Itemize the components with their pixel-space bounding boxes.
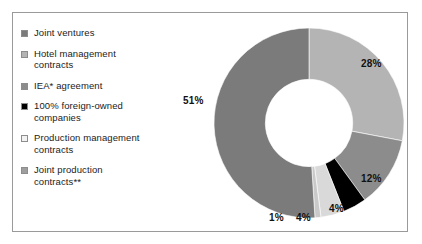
donut-chart-svg — [211, 25, 407, 221]
donut-slices — [214, 28, 404, 218]
legend-swatch-hotel-management-contracts — [21, 51, 28, 58]
legend-item-foreign-owned-companies: 100% foreign-owned companies — [21, 100, 189, 123]
legend-item-joint-production-contracts: Joint production contracts** — [21, 164, 189, 187]
legend-item-iea-agreement: IEA* agreement — [21, 80, 189, 92]
legend-swatch-joint-production-contracts — [21, 167, 28, 174]
chart-legend: Joint ventures Hotel management contract… — [21, 27, 189, 196]
legend-swatch-foreign-owned-companies — [21, 103, 28, 110]
legend-label-foreign-owned-companies: 100% foreign-owned companies — [34, 100, 123, 123]
legend-label-hotel-management-contracts: Hotel management contracts — [34, 48, 116, 71]
slice-value-label-4-black: 4% — [329, 203, 344, 214]
slice-value-label-12: 12% — [361, 173, 382, 184]
donut-slice-28pct-0 — [309, 28, 404, 141]
legend-swatch-iea-agreement — [21, 83, 28, 90]
slice-value-label-4-light: 4% — [296, 212, 311, 223]
slice-value-label-28: 28% — [361, 58, 382, 69]
legend-item-hotel-management-contracts: Hotel management contracts — [21, 48, 189, 71]
donut-chart: 28% 12% 4% 4% 1% 51% — [189, 17, 407, 229]
legend-swatch-production-management-contracts — [21, 135, 28, 142]
legend-swatch-joint-ventures — [21, 30, 28, 37]
legend-label-joint-ventures: Joint ventures — [34, 27, 95, 39]
slice-value-label-1: 1% — [269, 212, 284, 223]
legend-label-production-management-contracts: Production management contracts — [34, 132, 140, 155]
donut-slice-51pct-5 — [214, 28, 315, 218]
slice-value-label-51: 51% — [183, 95, 204, 106]
legend-label-joint-production-contracts: Joint production contracts** — [34, 164, 103, 187]
legend-label-iea-agreement: IEA* agreement — [34, 80, 102, 92]
chart-figure: Joint ventures Hotel management contract… — [12, 12, 408, 232]
legend-item-joint-ventures: Joint ventures — [21, 27, 189, 39]
legend-item-production-management-contracts: Production management contracts — [21, 132, 189, 155]
